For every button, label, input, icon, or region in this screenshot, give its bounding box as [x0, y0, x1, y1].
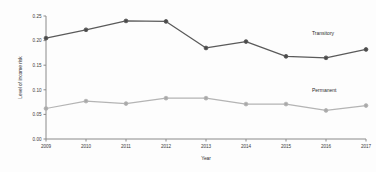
y-tick-label: 0.15 [33, 63, 42, 68]
data-point-permanent [164, 96, 168, 100]
data-point-permanent [364, 104, 368, 108]
series-label-transitory: Transitory [312, 30, 335, 36]
chart-figure: 0.000.050.100.150.200.252009201020112012… [0, 0, 376, 172]
data-point-transitory [364, 48, 368, 52]
data-point-permanent [284, 102, 288, 106]
y-tick-label: 0.10 [33, 88, 42, 93]
series-label-permanent: Permanent [312, 87, 337, 93]
data-point-permanent [84, 99, 88, 103]
series-line-transitory [46, 21, 366, 58]
x-tick-label: 2014 [241, 144, 252, 149]
data-point-permanent [324, 109, 328, 113]
x-tick-label: 2017 [361, 144, 372, 149]
x-tick-label: 2009 [41, 144, 52, 149]
data-point-permanent [244, 102, 248, 106]
data-point-transitory [124, 19, 128, 23]
x-tick-label: 2016 [321, 144, 332, 149]
data-point-transitory [164, 20, 168, 24]
data-point-transitory [284, 54, 288, 58]
data-point-transitory [244, 40, 248, 44]
y-tick-label: 0.05 [33, 112, 42, 117]
y-axis-title: Level of income risk [18, 56, 23, 99]
line-chart: 0.000.050.100.150.200.252009201020112012… [0, 0, 376, 172]
y-tick-label: 0.00 [33, 137, 42, 142]
data-point-permanent [44, 107, 48, 111]
x-tick-label: 2012 [161, 144, 172, 149]
data-point-transitory [44, 36, 48, 40]
x-tick-label: 2011 [121, 144, 131, 149]
y-tick-label: 0.20 [33, 38, 42, 43]
y-tick-label: 0.25 [33, 14, 42, 19]
x-tick-label: 2013 [201, 144, 212, 149]
data-point-permanent [204, 96, 208, 100]
x-axis-title: Year [201, 156, 211, 161]
x-tick-label: 2010 [81, 144, 92, 149]
data-point-transitory [324, 56, 328, 60]
x-tick-label: 2015 [281, 144, 292, 149]
data-point-transitory [84, 28, 88, 32]
data-point-transitory [204, 46, 208, 50]
data-point-permanent [124, 102, 128, 106]
